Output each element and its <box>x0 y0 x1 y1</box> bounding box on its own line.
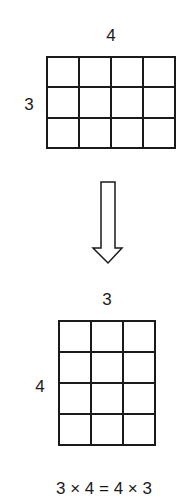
bottom-grid <box>59 321 155 445</box>
commutative-equation: 3 × 4 = 4 × 3 <box>0 480 183 498</box>
bottom-grid-row-count-label: 4 <box>33 378 47 395</box>
down-arrow-icon <box>93 182 122 263</box>
top-grid-column-count-label: 4 <box>104 27 118 44</box>
top-grid-row-count-label: 3 <box>22 96 36 113</box>
bottom-grid-column-count-label: 3 <box>100 291 114 308</box>
top-grid <box>47 57 175 148</box>
diagram-canvas <box>0 0 183 499</box>
